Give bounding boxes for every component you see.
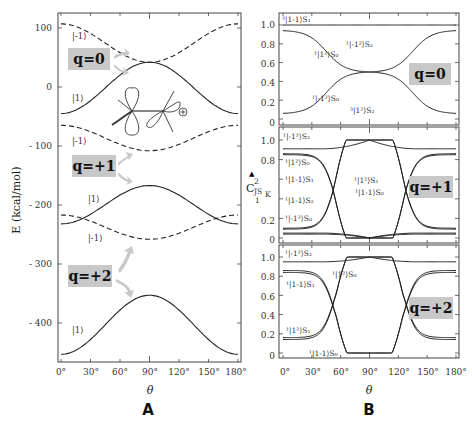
a-xtick-0: 0°	[56, 367, 66, 377]
b-ylabel-sup: 2	[254, 177, 259, 186]
b-bot-label-d: ¹|1²⟩S₁	[286, 326, 310, 335]
b-xtick-30: 30°	[305, 367, 321, 377]
a-curve-solid	[61, 295, 238, 354]
b-bot-ytick-0: 0	[269, 351, 275, 361]
b-mid-label-f: ¹|1²⟩S₁	[354, 176, 378, 185]
b-top-ytick-04: 0.4	[261, 78, 276, 88]
a-q0-label: q=0	[73, 51, 105, 67]
b-top-label-d: ¹|-1²⟩S₀	[312, 94, 339, 103]
arrow-icon	[118, 152, 133, 166]
panel-b: 1.0 0.8 0.6 0.4 0.2 0 1.0 0.8 0.2 0 1.0 …	[246, 13, 467, 397]
a-label-m1-low: |-1⟩	[88, 233, 102, 244]
b-top-label-b: ¹|-1²⟩S₂	[346, 40, 373, 49]
a-label-m1-mid: |-1⟩	[72, 136, 86, 147]
b-q0-label: q=0	[414, 66, 446, 82]
b-bot-yticks: 1.0 0.8 0.6 0.4 0.2 0	[261, 253, 276, 361]
b-bot-ytick-04: 0.4	[261, 311, 276, 321]
arrow-icon	[118, 172, 133, 185]
b-xticks: 0° 30° 60° 90° 120° 150° 180°	[280, 367, 467, 377]
a-ytick-0: 0	[46, 82, 52, 92]
b-top-label-c: ¹|1²⟩S₀	[314, 50, 338, 59]
arrow-icon	[118, 246, 134, 273]
a-ytick-m100: - 100	[29, 141, 52, 151]
arrow-icon	[114, 48, 130, 59]
a-xtick-60: 60°	[112, 367, 128, 377]
b-xtick-120: 120°	[388, 367, 410, 377]
b-top-ytick-1: 1.0	[261, 20, 276, 30]
b-xtick-90: 90°	[362, 367, 378, 377]
panel-a-curves	[61, 24, 238, 354]
a-ytick-m400: - 400	[29, 318, 52, 328]
b-bot-ytick-08: 0.8	[261, 272, 276, 282]
b-xtick-60: 60°	[333, 367, 349, 377]
b-mid-label-d: ¹|1-1⟩S₂	[285, 196, 314, 205]
b-top-ytick-08: 0.8	[261, 40, 276, 50]
a-xtick-90: 90°	[142, 367, 158, 377]
b-bot-label-e: ¹|1-1⟩S₀	[309, 349, 338, 358]
b-xtick-0: 0°	[280, 367, 290, 377]
b-ylabel-sub: JS	[253, 187, 262, 196]
a-label-m1-top: |-1⟩	[72, 31, 86, 42]
a-label-p1-top: |1⟩	[72, 93, 84, 104]
b-mid-ytick-1: 1.0	[261, 136, 276, 146]
b-ylabel-index: 1	[255, 196, 260, 205]
b-xtick-180: 180°	[445, 367, 467, 377]
b-top-label-e: ³|1²⟩S₂	[350, 106, 374, 115]
a-xticks: 0° 30° 60° 90° 120° 150° 180°	[56, 367, 247, 377]
b-top-ytick-02: 0.2	[261, 98, 275, 108]
panel-a: 100 0 - 100 - 200 - 300 - 400 0° 30° 60°…	[10, 13, 247, 397]
b-top-ytick-0: 0	[269, 118, 275, 128]
a-curve-solid	[61, 186, 238, 224]
b-bot-label-c: ¹|1-1⟩S₁	[286, 280, 315, 289]
a-xtick-180: 180°	[225, 367, 247, 377]
a-curve-dashed	[61, 125, 238, 150]
b-mid-label-c: ¹|1-1⟩S₁	[285, 175, 314, 184]
panel-letter-b: B	[363, 401, 374, 419]
b-bot-ytick-06: 0.6	[261, 292, 276, 302]
b-xtick-150: 150°	[417, 367, 439, 377]
panel-letter-a: A	[142, 401, 154, 419]
a-q2-label: q=+2	[69, 268, 112, 284]
b-mid-ytick-0: 0	[269, 235, 275, 245]
arrow-icon	[116, 279, 134, 298]
a-ytick-m200: - 200	[29, 200, 52, 210]
b-mid-ytick-02: 0.2	[261, 216, 275, 226]
b-mid-label-b: ¹|1²⟩S₀	[285, 158, 309, 167]
a-arrows	[114, 48, 134, 298]
b-bot-label-a: ¹|-1²⟩S₂	[285, 249, 312, 258]
a-ytick-m300: - 300	[29, 259, 52, 269]
b-top-label-a: ³|1-1⟩S₁	[282, 15, 311, 24]
b-top-ytick-06: 0.6	[261, 59, 276, 69]
a-ytick-100: 100	[35, 23, 52, 33]
figure: 100 0 - 100 - 200 - 300 - 400 0° 30° 60°…	[0, 0, 472, 424]
a-xtick-30: 30°	[83, 367, 99, 377]
b-top-yticks: 1.0 0.8 0.6 0.4 0.2 0	[261, 20, 276, 128]
a-label-p1-mid: |1⟩	[88, 194, 100, 205]
b-q2-label: q=+2	[410, 300, 453, 316]
a-xlabel: θ	[147, 384, 154, 397]
a-xtick-120: 120°	[168, 367, 190, 377]
a-label-p1-low: |1⟩	[72, 325, 84, 336]
b-ylabel: ▲ C 2 JS K 1	[246, 170, 271, 205]
a-xtick-150: 150°	[198, 367, 220, 377]
b-bot-label-b: ¹|1²⟩S₀	[332, 270, 356, 279]
b-mid-label-g: ¹|1-1⟩S₀	[355, 188, 384, 197]
b-mid-label-a: ¹|-1²⟩S₂	[283, 132, 310, 141]
b-bot-ytick-02: 0.2	[261, 330, 275, 340]
b-mid-ytick-08: 0.8	[261, 156, 276, 166]
b-q1-label: q=+1	[410, 179, 453, 195]
a-q1-label: q=+1	[73, 158, 116, 174]
b-curve	[283, 140, 456, 149]
a-ylabel: E (kcal/mol)	[10, 166, 23, 233]
b-xlabel: θ	[366, 384, 373, 397]
b-bot-ytick-1: 1.0	[261, 253, 276, 263]
molecule-orbital-diagram	[112, 88, 187, 135]
b-ylabel-subsub: K	[265, 190, 271, 199]
b-mid-label-e: ¹|-1²⟩S₀	[285, 214, 312, 223]
